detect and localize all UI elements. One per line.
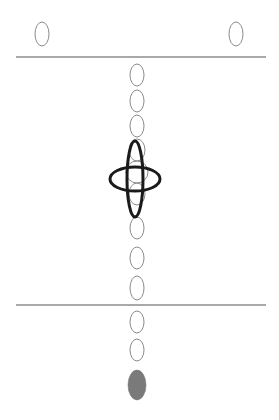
- column-ellipse: [130, 339, 144, 361]
- top-right-ellipse: [229, 22, 243, 46]
- column-ellipse: [130, 311, 144, 333]
- ellipse-column: [126, 64, 148, 361]
- column-ellipse: [130, 217, 144, 239]
- focus-vertical-ellipse: [127, 141, 143, 217]
- column-ellipse: [130, 115, 144, 137]
- filled-ellipse-group: [128, 370, 146, 400]
- diagram-canvas: [0, 0, 279, 420]
- horizontal-lines: [16, 57, 266, 305]
- column-ellipse: [130, 64, 144, 86]
- column-ellipse: [130, 90, 144, 112]
- column-ellipse: [130, 247, 144, 269]
- focus-horizontal-ellipse: [110, 167, 160, 191]
- top-ellipses: [35, 22, 243, 46]
- top-left-ellipse: [35, 22, 49, 46]
- column-ellipse: [126, 161, 148, 183]
- focus-cross-symbol: [110, 141, 160, 217]
- column-ellipse: [130, 276, 144, 300]
- filled-ellipse: [128, 370, 146, 400]
